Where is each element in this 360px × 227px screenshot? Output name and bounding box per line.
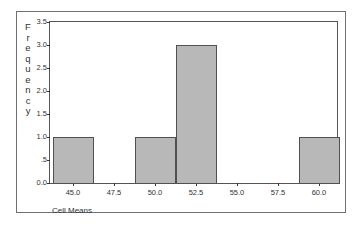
y-tick-mark [47, 137, 50, 138]
y-tick-label: 2.0 [30, 86, 47, 95]
x-tick-label: 45.0 [58, 188, 88, 197]
histogram-bar [135, 137, 176, 184]
y-tick-mark [47, 91, 50, 92]
histogram-bar [299, 137, 340, 184]
y-tick-mark [47, 114, 50, 115]
x-tick-label: 60.0 [304, 188, 334, 197]
y-tick-mark [47, 45, 50, 46]
y-tick-label: 0.0 [30, 178, 47, 187]
y-tick-mark [47, 160, 50, 161]
y-tick-mark [47, 68, 50, 69]
y-tick-label: 1.0 [30, 132, 47, 141]
x-tick-label: 57.5 [263, 188, 293, 197]
x-tick-label: 50.0 [140, 188, 170, 197]
y-tick-mark [47, 183, 50, 184]
y-tick-label: 3.5 [30, 17, 47, 26]
x-axis-label: Cell Means [52, 206, 92, 215]
y-tick-label: .5 [30, 155, 47, 164]
x-tick-mark [237, 183, 238, 186]
x-tick-label: 55.0 [222, 188, 252, 197]
histogram-bar [53, 137, 94, 184]
y-tick-label: 2.5 [30, 63, 47, 72]
y-tick-label: 3.0 [30, 40, 47, 49]
histogram-bar [176, 45, 217, 184]
x-tick-mark [278, 183, 279, 186]
x-tick-mark [114, 183, 115, 186]
x-tick-label: 47.5 [99, 188, 129, 197]
y-tick-mark [47, 22, 50, 23]
y-tick-label: 1.5 [30, 109, 47, 118]
x-tick-label: 52.5 [181, 188, 211, 197]
